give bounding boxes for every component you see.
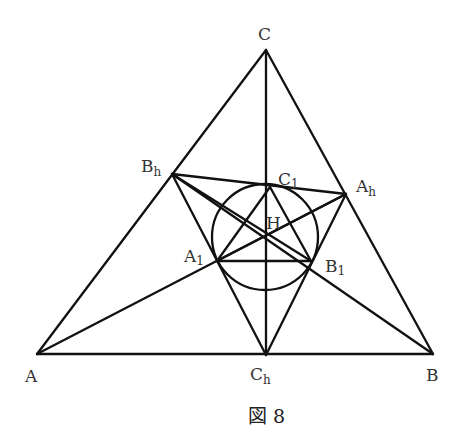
- segment-C-A: [37, 50, 266, 354]
- segments-group: [37, 50, 433, 355]
- label-B1: B1: [325, 256, 345, 278]
- label-Ch: Ch: [250, 364, 271, 387]
- label-A1: A1: [183, 246, 204, 268]
- label-C: C: [258, 24, 271, 44]
- label-B: B: [426, 365, 439, 385]
- label-Bh: Bh: [141, 156, 162, 179]
- label-C1: C1: [278, 169, 299, 191]
- label-A: A: [24, 366, 38, 386]
- figure-caption: 図 8: [248, 405, 285, 427]
- label-H: H: [266, 213, 281, 233]
- segment-Ah-A1: [217, 194, 346, 261]
- segment-C1-A1: [217, 187, 270, 261]
- figure-canvas: C A B Ch Bh Ah C1 A1 B1 H 図 8: [0, 0, 466, 448]
- segment-B-C: [266, 50, 433, 354]
- label-Ah: Ah: [355, 176, 376, 199]
